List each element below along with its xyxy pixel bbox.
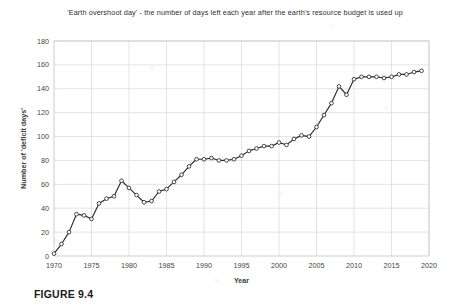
data-point-marker [112,194,116,198]
data-point-marker [60,242,64,246]
data-series-line [54,71,422,254]
x-axis-tick-label: 2015 [384,261,400,270]
data-point-marker [285,143,289,147]
x-axis-tick-label: 1990 [196,261,212,270]
data-point-marker [127,186,131,190]
x-axis-tick-label: 1975 [84,261,100,270]
data-point-marker [337,85,341,89]
data-point-marker [360,75,364,79]
data-point-marker [105,197,109,201]
data-point-marker [382,76,386,80]
data-point-marker [75,212,79,216]
x-axis-tick-label: 1995 [234,261,250,270]
y-axis-tick-label: 120 [37,108,49,117]
y-axis-tick-label: 60 [41,180,49,189]
x-axis-tick-label: 1970 [46,261,62,270]
data-point-marker [270,144,274,148]
data-point-marker [277,141,281,145]
y-axis-tick-label: 140 [37,84,49,93]
x-axis-title: Year [234,276,249,285]
data-point-marker [262,144,266,148]
y-axis-tick-label: 100 [37,132,49,141]
data-point-marker [352,77,356,81]
y-axis-tick-label: 20 [41,228,49,237]
data-point-marker [187,165,191,169]
data-point-marker [367,75,371,79]
figure-caption: FIGURE 9.4 [34,288,93,300]
data-point-marker [67,230,71,234]
y-axis-tick-label: 180 [37,37,49,46]
data-point-marker [420,69,424,73]
data-point-marker [172,180,176,184]
y-axis-tick-label: 40 [41,204,49,213]
x-axis-tick-label: 2005 [309,261,325,270]
data-point-marker [120,179,124,183]
data-point-marker [330,101,334,105]
data-point-marker [165,187,169,191]
y-axis-tick-label: 0 [45,252,49,261]
data-point-marker [412,70,416,74]
data-point-marker [300,134,304,138]
data-point-marker [390,75,394,79]
data-point-marker [247,149,251,153]
data-point-marker [322,113,326,117]
data-point-marker [82,214,86,218]
data-point-marker [307,135,311,139]
figure-container: 'Earth overshoot day' - the number of da… [0,0,460,308]
y-axis-tick-label: 160 [37,60,49,69]
x-axis-tick-label: 2020 [421,261,437,270]
data-point-marker [315,125,319,129]
data-point-marker [157,190,161,194]
data-point-marker [217,159,221,163]
data-point-marker [97,202,101,206]
data-point-marker [397,73,401,77]
data-point-marker [345,93,349,97]
y-axis-title: Number of 'deficit days' [19,108,28,189]
data-point-marker [225,159,229,163]
x-axis-tick-label: 1985 [159,261,175,270]
x-axis-tick-label: 1980 [121,261,137,270]
y-axis-tick-label: 80 [41,156,49,165]
data-point-marker [232,157,236,161]
data-point-marker [202,157,206,161]
data-point-marker [292,137,296,141]
line-chart: 0204060801001201401601801970197519801985… [0,0,460,308]
data-point-marker [90,217,94,221]
data-point-marker [375,75,379,79]
x-axis-tick-label: 2010 [346,261,362,270]
data-point-marker [150,199,154,203]
data-point-marker [255,147,259,151]
x-axis-tick-label: 2000 [271,261,287,270]
data-point-marker [180,173,184,177]
data-point-marker [240,154,244,158]
data-point-marker [142,200,146,204]
data-point-marker [195,157,199,161]
data-point-marker [52,252,56,256]
data-point-marker [135,193,139,197]
data-point-marker [210,156,214,160]
data-point-marker [405,73,409,77]
